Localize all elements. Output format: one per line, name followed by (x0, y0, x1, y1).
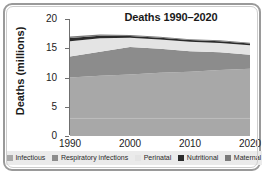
chart-frame: Deaths 1990–2020 Deaths (millions) 05101… (3, 3, 261, 171)
x-axis-tick-2000: 2000 (110, 138, 150, 150)
plot-area (70, 19, 250, 136)
legend-swatch-icon (178, 155, 184, 161)
legend-swatch-icon (135, 155, 141, 161)
legend-swatch-icon (225, 155, 231, 161)
y-axis-tickmark-20 (65, 19, 69, 20)
legend-item-label: Maternal (234, 154, 261, 162)
y-axis-tickmark-15 (65, 48, 69, 49)
y-axis-tickmark-10 (65, 78, 69, 79)
y-axis-tick-15: 15 (31, 43, 57, 53)
legend-item-perinatal[interactable]: Perinatal (135, 154, 171, 162)
x-axis-tick-labels: 1990200020102020 (5, 138, 263, 152)
chart-inner: Deaths 1990–2020 Deaths (millions) 05101… (5, 5, 263, 173)
y-axis-tick-20: 20 (31, 14, 57, 24)
legend-item-label: Nutritional (187, 154, 219, 162)
legend-item-maternal[interactable]: Maternal (225, 154, 261, 162)
x-axis-tick-2010: 2010 (170, 138, 210, 150)
legend-swatch-icon (7, 155, 13, 161)
stacked-area-svg (70, 19, 250, 136)
y-axis-tickmark-0 (65, 136, 69, 137)
legend-item-respiratory-infections[interactable]: Respiratory infections (52, 154, 128, 162)
y-axis-tick-10: 10 (31, 73, 57, 83)
legend-item-infectious[interactable]: Infectious (7, 154, 45, 162)
chart-legend: InfectiousRespiratory infectionsPerinata… (6, 151, 262, 165)
legend-item-label: Respiratory infections (61, 154, 128, 162)
y-axis-title: Deaths (millions) (14, 11, 26, 131)
y-axis-tick-5: 5 (31, 102, 57, 112)
legend-item-label: Infectious (15, 154, 45, 162)
legend-swatch-icon (52, 155, 58, 161)
x-axis-tick-2020: 2020 (230, 138, 268, 150)
y-axis-tickmark-5 (65, 107, 69, 108)
legend-item-nutritional[interactable]: Nutritional (178, 154, 218, 162)
x-axis-tick-1990: 1990 (50, 138, 90, 150)
legend-item-label: Perinatal (144, 154, 172, 162)
area-series-infectious (70, 69, 250, 136)
